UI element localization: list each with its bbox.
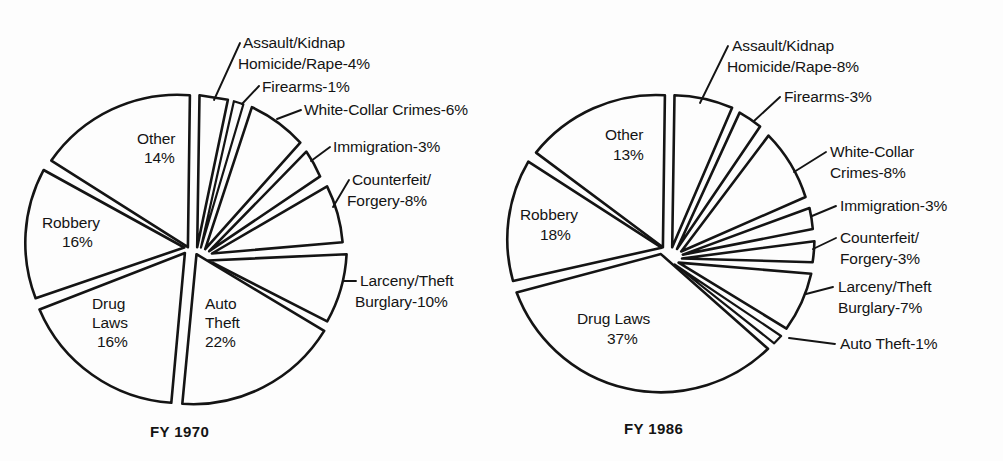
- label-other-line2: 13%: [613, 146, 644, 163]
- caption-fy1986: FY 1986: [624, 420, 683, 437]
- callout-counterfeit-line1: Counterfeit/: [840, 229, 920, 246]
- callout-immigration: Immigration-3%: [840, 197, 947, 214]
- leader-firearms: [754, 97, 780, 121]
- pie-slices-fy1986: [507, 95, 814, 392]
- label-robbery-line1: Robbery: [520, 206, 578, 223]
- label-other-line1: Other: [605, 126, 643, 143]
- callout-white-collar-line2: Crimes-8%: [830, 164, 906, 181]
- chart-fy1986: Other 13% Robbery 18% Drug Laws 37% Assa…: [0, 0, 1003, 461]
- label-robbery-line2: 18%: [540, 226, 571, 243]
- callout-counterfeit-line2: Forgery-3%: [840, 250, 920, 267]
- label-drug-laws-line1: Drug Laws: [577, 310, 651, 327]
- leader-white-collar: [794, 152, 826, 172]
- callout-firearms: Firearms-3%: [784, 88, 872, 105]
- leader-larceny-theft: [806, 287, 833, 294]
- callout-larceny-line1: Larceny/Theft: [838, 278, 932, 295]
- pie-chart-figure: Other 14% Robbery 16% Drug Laws 16% Auto…: [0, 0, 1003, 461]
- leader-counterfeit-forgery: [813, 238, 836, 249]
- callout-assault-kidnap-line2: Homicide/Rape-8%: [727, 58, 859, 75]
- leader-auto-theft: [789, 338, 835, 344]
- leader-immigration: [812, 206, 836, 216]
- callout-auto-theft: Auto Theft-1%: [840, 335, 938, 352]
- callout-larceny-line2: Burglary-7%: [838, 299, 922, 316]
- callout-white-collar-line1: White-Collar: [830, 143, 914, 160]
- callout-assault-kidnap-line1: Assault/Kidnap: [732, 37, 834, 54]
- label-drug-laws-line2: 37%: [607, 330, 638, 347]
- leader-assault-kidnap: [700, 46, 728, 103]
